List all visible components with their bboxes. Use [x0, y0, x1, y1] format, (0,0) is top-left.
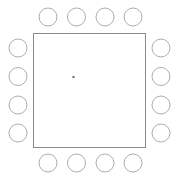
pad-right-2: [152, 68, 170, 86]
pad-top-2: [68, 8, 86, 26]
package-body-outline: [34, 34, 146, 148]
pad-group-bottom: [39, 154, 142, 172]
pad-right-3: [152, 96, 170, 114]
pad-top-3: [96, 8, 114, 26]
pad-group-right: [152, 39, 170, 142]
pad-group-top: [39, 8, 142, 26]
pad-top-4: [124, 8, 142, 26]
footprint-canvas: [0, 0, 176, 176]
pad-bottom-2: [68, 154, 86, 172]
pad-bottom-3: [96, 154, 114, 172]
pad-right-1: [152, 39, 170, 57]
pad-left-1: [9, 39, 27, 57]
center-origin-dot: [73, 76, 75, 78]
pad-group-left: [9, 39, 27, 142]
center-mark-layer: [73, 76, 75, 78]
footprint-diagram: [0, 0, 176, 176]
package-body-layer: [34, 34, 146, 148]
pad-left-4: [9, 124, 27, 142]
pad-left-2: [9, 68, 27, 86]
pad-right-4: [152, 124, 170, 142]
pad-left-3: [9, 96, 27, 114]
pad-top-1: [39, 8, 57, 26]
pad-bottom-1: [39, 154, 57, 172]
pad-bottom-4: [124, 154, 142, 172]
